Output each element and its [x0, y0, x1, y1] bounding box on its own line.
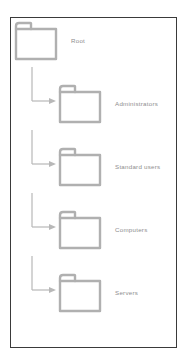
elbow-arrow-icon	[29, 255, 59, 298]
node-label-computers: Computers	[115, 227, 148, 233]
elbow-arrow-icon	[29, 192, 59, 235]
folder-icon	[57, 209, 103, 251]
node-label-root: Root	[71, 38, 85, 44]
node-label-administrators: Administrators	[115, 101, 158, 107]
folder-hierarchy-diagram: Root Administrators Standard u	[0, 0, 185, 362]
folder-icon	[57, 272, 103, 314]
diagram-panel: Root Administrators Standard u	[10, 17, 177, 348]
elbow-arrow-icon	[29, 129, 59, 172]
folder-icon	[57, 146, 103, 188]
node-label-standard-users: Standard users	[115, 164, 160, 170]
elbow-arrow-icon	[29, 66, 59, 109]
folder-icon	[57, 83, 103, 125]
node-label-servers: Servers	[115, 290, 138, 296]
folder-icon	[13, 20, 59, 62]
